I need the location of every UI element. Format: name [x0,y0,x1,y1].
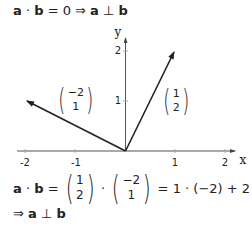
conclusion: ⇒ a ⊥ b [13,206,66,221]
x-tick-label: -1 [71,157,81,168]
x-tick-label: 2 [222,157,228,168]
x-axis-label: x [240,153,247,167]
y-axis-label: y [114,25,122,39]
x-tick-label: 1 [172,157,178,168]
matrix-a: ( 12 ) [63,171,97,205]
matrix-b: ( −21 ) [109,171,153,205]
y-tick-label: 1 [115,95,121,106]
y-tick-label: 2 [115,45,121,56]
vector-b-label: ( −21 ) [56,85,96,115]
vector-a-label: ( 12 ) [161,86,191,116]
x-tick-label: -2 [20,157,30,168]
dot-product-equation: a · b = ( 12 ) · ( −21 ) = 1 · (−2) + 2 … [13,172,252,204]
